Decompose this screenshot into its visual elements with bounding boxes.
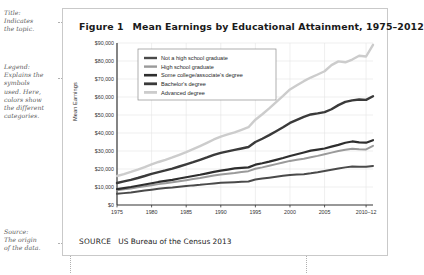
svg-text:$10,000: $10,000: [95, 184, 114, 190]
svg-text:$30,000: $30,000: [95, 148, 114, 154]
source-text: US Bureau of the Census 2013: [118, 237, 231, 246]
svg-text:$90,000: $90,000: [95, 40, 114, 46]
svg-text:$80,000: $80,000: [95, 58, 114, 64]
source-keyword: SOURCE: [79, 237, 111, 246]
svg-text:1995: 1995: [249, 209, 261, 215]
legend-annotation-line: colors show: [4, 96, 60, 104]
source-annotation-line: The origin: [4, 236, 60, 244]
svg-text:$20,000: $20,000: [95, 166, 114, 172]
source-line: SOURCEUS Bureau of the Census 2013: [79, 237, 231, 246]
svg-text:1985: 1985: [180, 209, 192, 215]
legend-annotation-line: Legend:: [4, 63, 60, 71]
svg-text:$70,000: $70,000: [95, 76, 114, 82]
figure-box: Figure 1Mean Earnings by Educational Att…: [62, 8, 388, 256]
svg-text:Bachelor's degree: Bachelor's degree: [161, 81, 206, 87]
svg-text:Not a high school graduate: Not a high school graduate: [161, 55, 228, 61]
svg-text:1980: 1980: [146, 209, 158, 215]
source-annotation-line: of the data.: [4, 244, 60, 252]
legend-annotation-line: the different: [4, 104, 60, 112]
source-annotation: Source: The origin of the data.: [4, 228, 60, 253]
svg-text:2005: 2005: [319, 209, 331, 215]
svg-text:$50,000: $50,000: [95, 112, 114, 118]
title-annotation: Title: Indicates the topic.: [4, 9, 60, 34]
svg-text:1990: 1990: [215, 209, 227, 215]
svg-text:1975: 1975: [111, 209, 123, 215]
svg-text:$60,000: $60,000: [95, 94, 114, 100]
svg-text:High school graduate: High school graduate: [161, 64, 214, 70]
svg-text:2000: 2000: [284, 209, 296, 215]
line-chart: $0$10,000$20,000$30,000$40,000$50,000$60…: [83, 37, 379, 223]
title-annotation-line: the topic.: [4, 25, 60, 33]
figure-title-text: Mean Earnings by Educational Attainment,…: [133, 21, 424, 32]
svg-text:2010–12: 2010–12: [356, 209, 377, 215]
legend-annotation-line: symbols: [4, 79, 60, 87]
figure-number: Figure 1: [79, 21, 124, 32]
legend-annotation-line: used. Here,: [4, 88, 60, 96]
legend-annotation: Legend: Explains the symbols used. Here,…: [4, 63, 60, 120]
svg-text:Some college/associate's degre: Some college/associate's degree: [161, 72, 243, 78]
source-annotation-line: Source:: [4, 228, 60, 236]
figure-title: Figure 1Mean Earnings by Educational Att…: [79, 21, 424, 32]
legend-annotation-line: Explains the: [4, 71, 60, 79]
svg-text:$40,000: $40,000: [95, 130, 114, 136]
title-annotation-line: Indicates: [4, 17, 60, 25]
chart-plot-area: Mean Earnings $0$10,000$20,000$30,000$40…: [83, 37, 379, 223]
svg-text:$0: $0: [108, 202, 114, 208]
svg-text:Advanced degree: Advanced degree: [161, 90, 205, 96]
title-annotation-line: Title:: [4, 9, 60, 17]
legend-annotation-line: categories.: [4, 112, 60, 120]
y-axis-label: Mean Earnings: [72, 82, 78, 121]
